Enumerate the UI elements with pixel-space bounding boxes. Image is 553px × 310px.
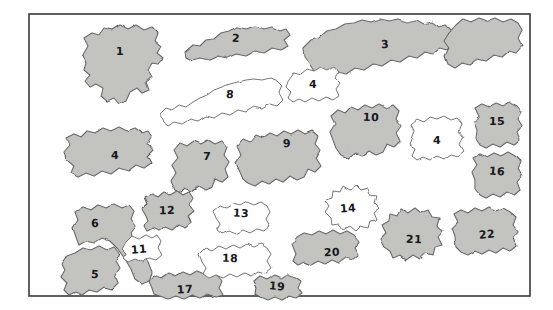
blob-label-6: 6	[91, 217, 100, 230]
blob-label-1: 1	[116, 45, 124, 58]
blob-label-19: 19	[268, 279, 285, 293]
blob-label-18: 18	[222, 252, 238, 265]
blob-label-15: 15	[489, 115, 505, 128]
blob-label-16: 16	[489, 164, 506, 178]
blob-label-14: 14	[339, 201, 356, 215]
blob-label-4: 4	[309, 78, 317, 91]
blob-label-5: 5	[91, 268, 100, 282]
blob-label-8: 8	[225, 88, 234, 102]
blob-label-2: 2	[232, 32, 241, 45]
blob-label-17: 17	[177, 283, 194, 297]
blob-label-3: 3	[380, 38, 389, 52]
figure-root: 1234445678910111213141516171819202122	[0, 0, 553, 310]
blob-label-20: 20	[324, 246, 341, 260]
blob-label-13: 13	[233, 207, 250, 221]
blob-label-7: 7	[203, 150, 211, 163]
blob-label-21: 21	[406, 233, 423, 247]
blob-label-10: 10	[363, 111, 380, 125]
blob-label-9: 9	[283, 137, 292, 150]
blob-label-12: 12	[159, 204, 175, 217]
blob-label-22: 22	[478, 227, 495, 241]
blob-map-svg: 1234445678910111213141516171819202122	[0, 0, 553, 310]
blob-label-4: 4	[433, 134, 441, 147]
blob-label-11: 11	[130, 242, 147, 256]
blob-label-4: 4	[111, 149, 119, 162]
